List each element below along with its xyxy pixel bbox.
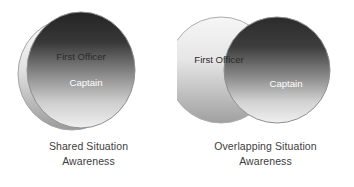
diagram-shared-circles: First Officer Captain (0, 0, 177, 140)
panel-overlapping-situation-awareness: First Officer Captain Overlapping Situat… (177, 0, 354, 187)
diagram-overlapping-circles: First Officer Captain (177, 0, 354, 140)
caption-line-1: Shared Situation (0, 139, 177, 154)
caption-line-2: Awareness (0, 154, 177, 169)
circle-label-first-officer: First Officer (56, 51, 106, 62)
caption-overlapping-situation-awareness: Overlapping Situation Awareness (177, 139, 354, 169)
caption-line-1: Overlapping Situation (177, 139, 354, 154)
caption-shared-situation-awareness: Shared Situation Awareness (0, 139, 177, 169)
panel-shared-situation-awareness: First Officer Captain Shared Situation A… (0, 0, 177, 187)
circle-captain-front (27, 12, 135, 128)
caption-line-2: Awareness (177, 154, 354, 169)
circle-captain (224, 17, 330, 123)
circle-label-captain: Captain (69, 77, 102, 88)
circle-label-first-officer: First Officer (194, 54, 244, 65)
situation-awareness-figure: First Officer Captain Shared Situation A… (0, 0, 354, 187)
circle-label-captain: Captain (269, 78, 302, 89)
